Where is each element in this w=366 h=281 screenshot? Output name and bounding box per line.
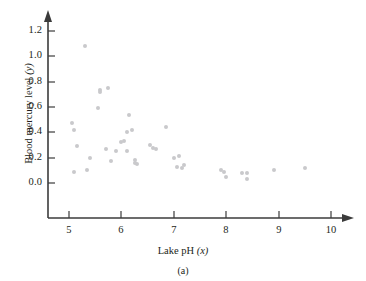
- x-axis-variable: (x): [197, 245, 209, 256]
- y-axis-title: Blood mercury level (y): [23, 34, 34, 194]
- xtick-label-3: 8: [211, 224, 241, 235]
- x-axis-title-text: Lake pH: [158, 245, 194, 256]
- y-axis-variable: (y): [23, 63, 34, 75]
- panel-caption: (a): [78, 265, 288, 276]
- scatter-point: [104, 147, 108, 151]
- scatter-point: [303, 166, 307, 170]
- xtick-label-1: 6: [106, 224, 136, 235]
- scatter-point: [172, 156, 176, 160]
- x-axis-title: Lake pH (x): [78, 245, 288, 256]
- scatter-plot-figure: 0.0 0.2 0.4 0.6 0.8 1.0 1.2 5 6 7 8 9 10…: [0, 0, 366, 281]
- scatter-point: [272, 168, 276, 172]
- scatter-point: [72, 170, 76, 174]
- scatter-point: [175, 165, 179, 169]
- xtick-label-5: 10: [316, 224, 346, 235]
- scatter-point: [154, 147, 158, 151]
- scatter-point: [240, 171, 244, 175]
- scatter-point: [222, 170, 226, 174]
- scatter-point: [127, 113, 131, 117]
- scatter-point: [130, 128, 134, 132]
- scatter-point: [72, 128, 76, 132]
- plot-axes: [0, 0, 366, 281]
- xtick-label-0: 5: [54, 224, 84, 235]
- xtick-label-2: 7: [159, 224, 189, 235]
- scatter-point: [83, 44, 87, 48]
- y-axis-title-text: Blood mercury level: [23, 77, 34, 163]
- xtick-label-4: 9: [264, 224, 294, 235]
- scatter-point: [88, 156, 92, 160]
